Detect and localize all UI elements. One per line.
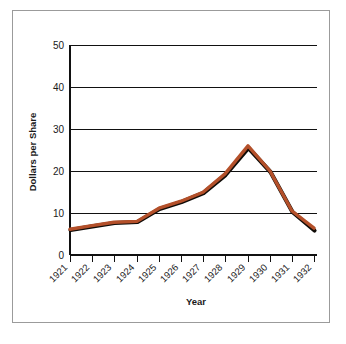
data-line-shadow [71, 148, 315, 231]
y-tick-label-40: 40 [53, 82, 65, 93]
x-tick-label-1924: 1924 [114, 262, 137, 285]
y-axis-title: Dollars per Share [27, 113, 38, 192]
chart-figure: 50 40 30 20 10 0 1921 1922 1923 1924 192… [0, 0, 346, 344]
y-tick-label-50: 50 [53, 40, 65, 51]
x-tick-labels: 1921 1922 1923 1924 1925 1926 1927 1928 … [47, 262, 314, 285]
y-tick-label-20: 20 [53, 166, 65, 177]
x-tickmarks [70, 255, 314, 262]
x-tick-label-1926: 1926 [158, 262, 181, 285]
y-tick-label-10: 10 [53, 208, 65, 219]
y-tick-label-30: 30 [53, 124, 65, 135]
y-tick-labels: 50 40 30 20 10 0 [53, 40, 65, 261]
x-tick-label-1921: 1921 [47, 262, 70, 285]
data-series-dollars-per-share [70, 146, 315, 231]
x-axis-title: Year [186, 296, 206, 307]
y-tick-label-0: 0 [58, 250, 64, 261]
x-tick-label-1929: 1929 [225, 262, 248, 285]
x-tick-label-1928: 1928 [202, 262, 225, 285]
x-tick-label-1932: 1932 [291, 262, 314, 285]
x-tick-label-1931: 1931 [269, 262, 292, 285]
x-tick-label-1930: 1930 [247, 262, 270, 285]
data-line [70, 146, 314, 229]
x-tick-label-1925: 1925 [136, 262, 159, 285]
x-tick-label-1923: 1923 [91, 262, 114, 285]
x-tick-label-1922: 1922 [69, 262, 92, 285]
line-chart: 50 40 30 20 10 0 1921 1922 1923 1924 192… [0, 0, 346, 344]
x-tick-label-1927: 1927 [180, 262, 203, 285]
